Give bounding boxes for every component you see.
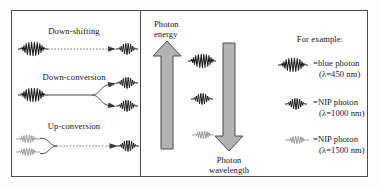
- connector-down-shifting: [48, 42, 116, 56]
- legend-glyph-nip-1000-photon: [285, 97, 307, 111]
- legend-label-blue-photon: =blue photon: [313, 58, 359, 68]
- connector-down-conversion-split: [48, 79, 118, 111]
- photon-nip1000-out-down-conversion-lower: [116, 99, 138, 113]
- photon-wavelength-label-line1: Photon: [217, 155, 242, 165]
- connector-up-conversion-merge: [40, 131, 118, 161]
- legend-wavelength-nip-1000-photon: (λ=1000 nm): [319, 108, 365, 118]
- process-label-up-conversion: Up-conversion: [48, 121, 100, 131]
- legend-label-nip-1000-photon: =NIP photon: [313, 97, 358, 107]
- photon-nip1500-in-up-conversion-upper: [16, 133, 40, 145]
- legend-wavelength-blue-photon: (λ=450 nm): [319, 69, 360, 79]
- photon-wavelength-label-line2: wavelength: [209, 165, 249, 175]
- legend-wavelength-nip-1500-photon: (λ=1500 nm): [319, 145, 365, 155]
- photon-nip1000-out-down-shifting: [116, 42, 138, 56]
- photon-wavelength-arrow: [214, 42, 244, 152]
- photon-blue-in-down-shifting: [18, 42, 48, 56]
- photon-blue-in-down-conversion: [18, 88, 48, 102]
- photon-nip1500-in-up-conversion-lower: [16, 146, 40, 158]
- scale-photon-nip-1500: [192, 129, 214, 141]
- scale-photon-blue: [188, 54, 216, 68]
- scale-photon-nip-1000: [191, 92, 213, 106]
- photon-energy-label-line2: energy: [154, 29, 178, 39]
- legend-label-nip-1500-photon: =NIP photon: [313, 134, 358, 144]
- legend-heading: For example:: [297, 34, 343, 44]
- photon-energy-arrow: [152, 40, 182, 150]
- photon-nip1000-out-up-conversion: [117, 139, 139, 153]
- photon-energy-label-line1: Photon: [154, 19, 179, 29]
- legend-glyph-blue-photon: [278, 58, 308, 72]
- legend-glyph-nip-1500-photon: [285, 134, 309, 146]
- panel-divider: [140, 11, 141, 176]
- photon-nip1000-out-down-conversion-upper: [116, 76, 138, 90]
- process-label-down-shifting: Down-shifting: [48, 26, 99, 36]
- figure-canvas: Down-shifting Down-conversion: [0, 0, 380, 189]
